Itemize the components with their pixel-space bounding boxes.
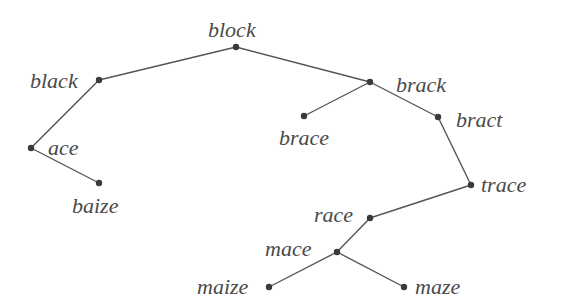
edge-brack-brace [304,82,370,116]
node-brace [301,113,307,119]
node-block [233,44,239,50]
node-ace [28,145,34,151]
label-brack: brack [396,72,447,97]
word-tree-diagram: blockblackacebaizebrackbracebracttracera… [0,0,565,308]
node-baize [96,180,102,186]
edge-block-brack [236,47,370,82]
label-race: race [314,202,353,227]
label-block: block [208,17,257,42]
label-bract: bract [456,107,503,132]
label-maize: maize [197,274,249,299]
label-brace: brace [279,125,329,150]
label-baize: baize [72,193,119,218]
labels-group: blockblackacebaizebrackbracebracttracera… [30,17,526,299]
node-race [367,215,373,221]
node-bract [435,114,441,120]
label-black: black [30,68,79,93]
edge-trace-race [370,185,471,218]
node-black [96,77,102,83]
edge-block-black [99,47,236,80]
node-trace [468,182,474,188]
label-ace: ace [48,135,79,160]
label-trace: trace [481,172,526,197]
node-maze [401,284,407,290]
node-brack [367,79,373,85]
label-mace: mace [265,236,312,261]
edge-mace-maze [337,252,404,287]
label-maze: maze [415,274,460,299]
node-maize [266,284,272,290]
node-mace [334,249,340,255]
